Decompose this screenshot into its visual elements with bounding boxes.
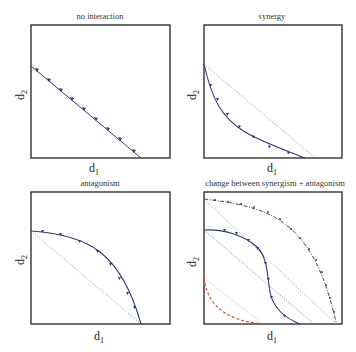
y-axis-label: d2 bbox=[13, 90, 29, 100]
outer-dots bbox=[214, 199, 335, 313]
panel-title: change between synergism + antagonism bbox=[205, 178, 345, 188]
arrow-markers bbox=[209, 84, 290, 155]
panel-change-between: change between synergism + antagonism bbox=[185, 178, 345, 345]
arrow-markers bbox=[41, 230, 136, 309]
plot-frame bbox=[31, 25, 170, 158]
synergy-isobole bbox=[204, 64, 305, 158]
isobole-line bbox=[31, 66, 141, 158]
arrow-markers bbox=[223, 229, 286, 318]
x-axis-label: d1 bbox=[94, 329, 104, 345]
additivity-reference-line bbox=[31, 231, 141, 324]
y-axis-label: d2 bbox=[185, 257, 201, 267]
plot-frame bbox=[204, 192, 342, 324]
arrow-markers bbox=[35, 68, 136, 153]
plot-frame bbox=[204, 25, 342, 158]
outer-reference-line bbox=[204, 199, 336, 324]
isobologram-figure: no interaction d1 d2 synergy bbox=[0, 0, 356, 352]
y-axis-label: d2 bbox=[185, 90, 201, 100]
panel-antagonism: antagonism d1 d2 bbox=[13, 178, 170, 345]
x-axis-label: d1 bbox=[89, 161, 99, 177]
panel-synergy: synergy d1 d2 bbox=[185, 11, 342, 177]
x-axis-label: d1 bbox=[267, 329, 277, 345]
panel-title: synergy bbox=[259, 11, 287, 21]
panel-no-interaction: no interaction d1 d2 bbox=[13, 11, 170, 177]
panel-title: no interaction bbox=[77, 11, 125, 21]
additivity-reference-line bbox=[204, 64, 315, 158]
plot-frame bbox=[31, 192, 170, 324]
y-axis-label: d2 bbox=[13, 255, 29, 265]
panel-title: antagonism bbox=[80, 178, 120, 188]
x-axis-label: d1 bbox=[267, 161, 277, 177]
